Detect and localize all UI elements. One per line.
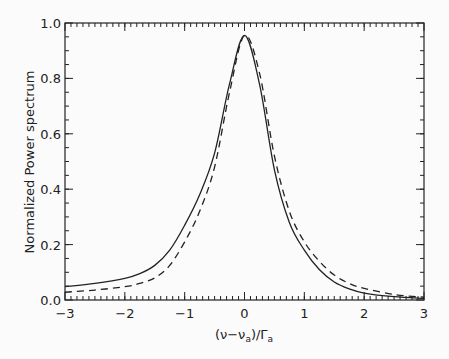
x-axis-title: (ν−νa)/Γa [215, 327, 273, 344]
plot-frame [65, 23, 424, 300]
series-dashed-line [65, 35, 424, 297]
data-series [65, 35, 424, 298]
y-tick-label: 0.0 [40, 293, 61, 308]
x-tick-label: −1 [175, 306, 194, 321]
x-tick-label: 2 [360, 306, 368, 321]
power-spectrum-chart: −3−2−10123 0.00.20.40.60.81.0 Normalized… [0, 0, 449, 359]
series-solid-line [65, 35, 424, 298]
y-tick-label: 1.0 [40, 16, 61, 31]
plot-border [65, 23, 424, 300]
x-tick-label: −3 [55, 306, 74, 321]
x-tick-label: −2 [115, 306, 134, 321]
x-tick-label: 0 [240, 306, 248, 321]
y-tick-label: 0.6 [40, 127, 61, 142]
x-tick-label: 1 [300, 306, 308, 321]
x-tick-label: 3 [420, 306, 428, 321]
y-tick-label: 0.8 [40, 71, 61, 86]
y-axis-title: Normalized Power spectrum [22, 71, 37, 254]
y-tick-label: 0.2 [40, 238, 61, 253]
y-tick-labels: 0.00.20.40.60.81.0 [40, 16, 61, 308]
y-tick-label: 0.4 [40, 182, 61, 197]
x-tick-labels: −3−2−10123 [55, 306, 428, 321]
minor-ticks [65, 23, 424, 300]
major-ticks [65, 23, 424, 300]
